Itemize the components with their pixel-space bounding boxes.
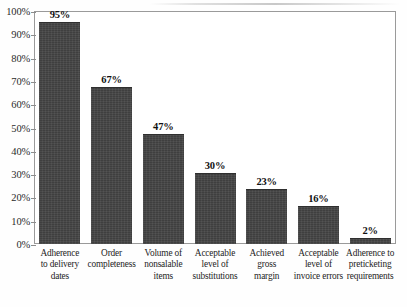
- bar-value-label: 30%: [205, 160, 225, 171]
- y-tick-label: 10%: [11, 215, 30, 226]
- bar-value-label: 2%: [362, 225, 377, 236]
- bar-value-label: 67%: [101, 74, 121, 85]
- x-tick-label: Achieved gross margin: [241, 248, 293, 282]
- x-axis: Adherence to delivery datesOrder complet…: [34, 248, 396, 307]
- bars-layer: 95%67%47%30%23%16%2%: [34, 11, 396, 244]
- x-tick-label: Volume of nonsalable items: [137, 248, 189, 282]
- y-axis: 0%10%20%30%40%50%60%70%80%90%100%: [0, 0, 34, 307]
- x-tick-label: Adherence to preticketing requirements: [344, 248, 396, 282]
- y-tick-label: 60%: [11, 99, 30, 110]
- bar-value-label: 16%: [308, 193, 328, 204]
- bar-value-label: 47%: [153, 121, 173, 132]
- x-tick-label: Acceptable level of substitutions: [189, 248, 241, 282]
- x-tick-label: Adherence to delivery dates: [34, 248, 86, 282]
- bar-value-label: 23%: [257, 176, 277, 187]
- x-tick-label: Order completeness: [86, 248, 138, 271]
- y-tick-label: 50%: [11, 122, 30, 133]
- x-tick-label: Acceptable level of invoice errors: [293, 248, 345, 282]
- bar: 2%: [350, 11, 391, 244]
- y-tick-label: 70%: [11, 75, 30, 86]
- y-tick-label: 80%: [11, 52, 30, 63]
- y-tick-mark: [31, 245, 36, 246]
- bar-rect: [350, 238, 391, 244]
- y-tick-label: 100%: [6, 6, 30, 17]
- y-tick-label: 30%: [11, 169, 30, 180]
- y-tick-label: 90%: [11, 29, 30, 40]
- bar-rect: [298, 206, 339, 244]
- bar: 16%: [298, 11, 339, 244]
- bar: 30%: [195, 11, 236, 244]
- scan-artifact: [150, 3, 400, 5]
- bar-chart: 0%10%20%30%40%50%60%70%80%90%100% 95%67%…: [0, 0, 407, 307]
- bar: 67%: [91, 11, 132, 244]
- bar-rect: [143, 134, 184, 245]
- bar: 47%: [143, 11, 184, 244]
- bar: 23%: [246, 11, 287, 244]
- bar-rect: [246, 189, 287, 244]
- bar: 95%: [39, 11, 80, 244]
- bar-rect: [39, 22, 80, 244]
- bar-rect: [195, 173, 236, 244]
- bar-rect: [91, 87, 132, 244]
- bar-value-label: 95%: [50, 9, 70, 20]
- y-tick-label: 20%: [11, 192, 30, 203]
- y-tick-label: 0%: [16, 239, 30, 250]
- y-tick-label: 40%: [11, 145, 30, 156]
